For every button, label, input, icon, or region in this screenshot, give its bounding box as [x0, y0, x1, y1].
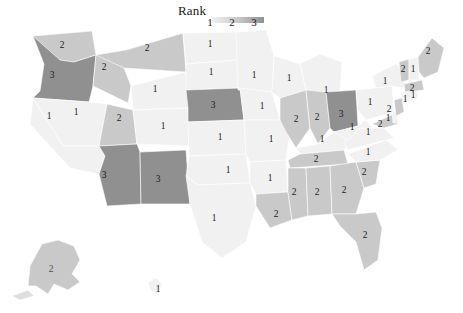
rank-label-new-mexico: 3: [156, 174, 161, 184]
rank-label-idaho: 2: [102, 62, 107, 72]
us-map-container: 2 3 2 2 1 1 2 1 3 3 1 1 1 3 1 1 1 1 1 1: [0, 28, 463, 313]
rank-label-colorado: 1: [161, 121, 166, 131]
legend-gradient-bar: [212, 9, 264, 15]
rank-label-hawaii: 1: [156, 284, 161, 294]
choropleth-map-figure: Rank 1 2 3: [0, 0, 463, 313]
rank-label-oregon: 3: [50, 70, 55, 80]
rank-label-montana: 2: [145, 43, 150, 53]
rank-label-arizona: 3: [102, 170, 107, 180]
state-oklahoma[interactable]: [186, 154, 250, 185]
rank-label-mississippi: 2: [292, 187, 297, 197]
rank-label-kansas: 1: [218, 132, 223, 142]
rank-label-north-dakota: 1: [208, 39, 213, 49]
rank-label-alabama: 2: [315, 187, 320, 197]
rank-label-texas: 1: [212, 213, 217, 223]
rank-label-washington: 2: [60, 40, 65, 50]
rank-label-south-dakota: 1: [209, 67, 214, 77]
rank-label-south-carolina: 2: [362, 167, 367, 177]
state-minnesota[interactable]: [236, 30, 274, 92]
state-texas[interactable]: [186, 176, 256, 258]
rank-label-georgia: 2: [342, 185, 347, 195]
rank-label-pennsylvania: 1: [368, 97, 373, 107]
rank-label-nevada: 1: [47, 111, 52, 121]
rank-label-minnesota: 1: [252, 70, 257, 80]
state-wyoming[interactable]: [131, 72, 188, 110]
legend-title: Rank: [178, 3, 206, 19]
legend-tick-1: 1: [204, 16, 216, 28]
rank-label-missouri: 1: [269, 134, 274, 144]
state-florida[interactable]: [332, 212, 382, 270]
rank-label-wyoming: 1: [153, 84, 158, 94]
rank-label-kentucky: 1: [320, 134, 325, 144]
rank-label-alaska: 2: [49, 264, 54, 274]
rank-label-north-carolina: 1: [366, 147, 371, 157]
rank-label-utah: 2: [117, 113, 122, 123]
rank-label-california: 1: [74, 107, 79, 117]
alaska-aleutians[interactable]: [12, 290, 34, 300]
rank-label-arkansas: 1: [268, 173, 273, 183]
rank-label-indiana: 2: [315, 112, 320, 122]
rank-label-massachusetts: 2: [410, 83, 415, 93]
rank-label-connecticut: 1: [403, 94, 408, 104]
rank-label-michigan: 1: [324, 85, 329, 95]
state-alaska[interactable]: [28, 240, 80, 294]
rank-label-new-hampshire: 1: [411, 64, 416, 74]
rank-label-new-york: 1: [383, 76, 388, 86]
rank-label-ohio: 3: [339, 109, 344, 119]
state-new-mexico[interactable]: [140, 150, 190, 204]
rank-label-nebraska: 3: [211, 100, 216, 110]
rank-label-west-virginia: 1: [350, 122, 355, 132]
rank-label-virginia: 1: [366, 127, 371, 137]
rank-label-maine: 2: [426, 46, 431, 56]
rank-label-vermont: 2: [401, 64, 406, 74]
state-maine[interactable]: [418, 38, 444, 78]
legend-tick-3: 3: [248, 16, 260, 28]
rank-label-oklahoma: 1: [226, 165, 231, 175]
us-map-svg: 2 3 2 2 1 1 2 1 3 3 1 1 1 3 1 1 1 1 1 1: [0, 28, 463, 313]
rank-label-new-jersey: 2: [387, 104, 392, 114]
rank-label-delaware: 1: [386, 113, 391, 123]
rank-label-illinois: 2: [294, 114, 299, 124]
rank-label-tennessee: 2: [314, 154, 319, 164]
rank-label-florida: 2: [363, 230, 368, 240]
rank-label-maryland: 2: [378, 119, 383, 129]
rank-label-louisiana: 2: [274, 209, 279, 219]
rank-label-wisconsin: 1: [287, 73, 292, 83]
legend-tick-2: 2: [226, 16, 238, 28]
rank-label-iowa: 1: [260, 101, 265, 111]
